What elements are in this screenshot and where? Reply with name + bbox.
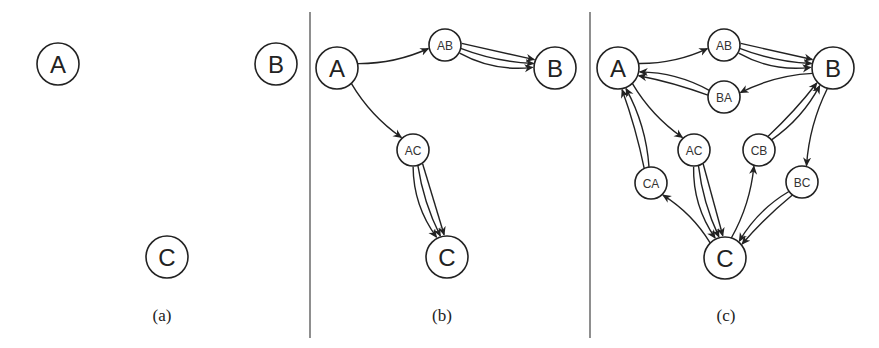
state-transition-diagram: ABCAABBACCAABBBAACCBCABCC (a) (b) (c) <box>0 0 879 348</box>
node-a: A <box>597 47 639 89</box>
node-label: AC <box>405 144 422 158</box>
node-label: B <box>825 55 841 82</box>
caption-b: (b) <box>432 306 452 325</box>
edge-A-to-AB <box>358 49 429 64</box>
edge-AB-to-B <box>741 43 813 59</box>
node-label: C <box>438 244 455 271</box>
node-label: A <box>329 55 345 82</box>
node-b: B <box>812 47 854 89</box>
node-b: B <box>534 47 576 89</box>
edge-AB-to-B <box>460 53 533 68</box>
node-bc: BC <box>786 166 818 198</box>
node-label: C <box>716 245 733 272</box>
node-label: B <box>547 55 563 82</box>
edge-B-to-BC <box>807 88 828 165</box>
node-a: A <box>316 47 358 89</box>
node-label: CA <box>643 177 660 191</box>
edge-C-to-CA <box>663 195 710 243</box>
node-ab: AB <box>708 29 740 61</box>
node-a: A <box>37 43 79 85</box>
node-ca: CA <box>635 167 667 199</box>
edge-AB-to-B <box>462 43 535 59</box>
edge-BC-to-C <box>739 192 789 242</box>
node-label: C <box>158 244 175 271</box>
edge-BA-to-A <box>639 76 708 96</box>
node-cb: CB <box>743 134 775 166</box>
edge-A-to-AC <box>632 83 682 137</box>
edge-AC-to-C <box>698 165 719 237</box>
node-c: C <box>426 236 468 278</box>
caption-c: (c) <box>717 306 736 325</box>
node-ac: AC <box>678 134 710 166</box>
node-label: BC <box>794 176 811 190</box>
node-label: A <box>50 51 66 78</box>
nodes-layer: ABCAABBACCAABBBAACCBCABCC <box>37 29 854 279</box>
caption-a: (a) <box>153 306 172 325</box>
edge-BA-to-A <box>640 72 710 91</box>
edge-CB-to-B <box>768 83 817 136</box>
edge-B-to-BA <box>740 73 812 92</box>
node-label: B <box>268 51 284 78</box>
node-c: C <box>146 236 188 278</box>
edge-AB-to-B <box>739 53 811 68</box>
node-label: AB <box>437 39 453 53</box>
edge-A-to-AB <box>639 49 708 64</box>
edge-CA-to-A <box>626 89 649 167</box>
node-label: AC <box>686 144 703 158</box>
node-label: BA <box>716 91 732 105</box>
node-label: AB <box>716 39 732 53</box>
edge-C-to-CB <box>731 166 754 238</box>
node-c: C <box>704 237 746 279</box>
edge-A-to-AC <box>351 83 401 137</box>
node-ac: AC <box>397 134 429 166</box>
node-label: A <box>610 55 626 82</box>
node-b: B <box>255 43 297 85</box>
node-ba: BA <box>708 81 740 113</box>
edge-AC-to-C <box>413 167 436 237</box>
edge-BC-to-C <box>742 195 792 244</box>
edge-AB-to-B <box>461 48 534 63</box>
node-label: CB <box>751 144 768 158</box>
edge-CB-to-B <box>772 86 820 140</box>
node-ab: AB <box>429 29 461 61</box>
edge-AC-to-C <box>694 167 716 238</box>
